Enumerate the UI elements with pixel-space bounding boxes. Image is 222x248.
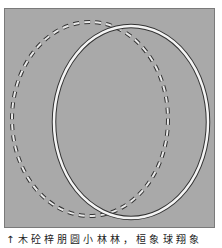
dashed-ellipse (12, 22, 168, 216)
figure-caption: ↑ 木 砼 梓 朋 圆 小 林 林 ， 桓 象 球 翔 象 (6, 234, 218, 248)
solid-ellipse (54, 26, 208, 218)
figure-panel (4, 8, 215, 228)
ellipse-diagram (5, 9, 215, 228)
